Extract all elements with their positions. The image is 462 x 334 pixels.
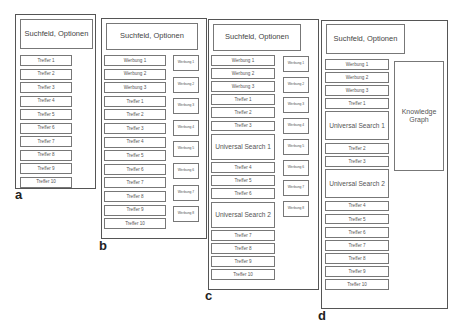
universal-search-block: Universal Search 1: [325, 111, 389, 140]
sidebar-ad: Werbung 6: [283, 160, 309, 176]
search-result: Treffer 10: [325, 279, 389, 290]
sidebar-ad: Werbung 6: [173, 163, 199, 179]
search-result: Treffer 2: [104, 109, 166, 120]
ad-result: Werbung 3: [211, 81, 275, 92]
search-result: Treffer 1: [211, 94, 275, 105]
ad-result: Werbung 3: [104, 82, 166, 93]
search-field-options: Suchfeld, Optionen: [326, 24, 405, 54]
search-result: Treffer 4: [20, 96, 72, 107]
search-result: Treffer 3: [211, 121, 275, 132]
search-result: Treffer 2: [211, 107, 275, 118]
search-result: Treffer 1: [325, 98, 389, 109]
panel-label-a: a: [15, 187, 22, 202]
search-result: Treffer 3: [325, 156, 389, 167]
sidebar-ad: Werbung 2: [173, 77, 199, 93]
sidebar-ad: Werbung 7: [173, 185, 199, 201]
search-result: Treffer 7: [104, 177, 166, 188]
sidebar-ad: Werbung 4: [283, 118, 309, 134]
search-field-options: Suchfeld, Optionen: [20, 19, 93, 49]
sidebar-ad: Werbung 5: [173, 141, 199, 157]
search-result: Treffer 5: [104, 150, 166, 161]
search-result: Treffer 8: [20, 150, 72, 161]
search-result: Treffer 5: [20, 109, 72, 120]
search-result: Treffer 9: [211, 256, 275, 267]
search-result: Treffer 8: [325, 253, 389, 264]
search-result: Treffer 1: [104, 96, 166, 107]
search-result: Treffer 6: [211, 188, 275, 199]
search-result: Treffer 3: [20, 82, 72, 93]
ad-result: Werbung 1: [211, 55, 275, 66]
sidebar-ad: Werbung 5: [283, 139, 309, 155]
search-result: Treffer 9: [104, 205, 166, 216]
universal-search-block: Universal Search 2: [211, 202, 275, 228]
sidebar-ad: Werbung 8: [283, 201, 309, 217]
search-result: Treffer 3: [104, 123, 166, 134]
search-result: Treffer 4: [104, 137, 166, 148]
search-result: Treffer 1: [20, 55, 72, 66]
search-result: Treffer 9: [20, 163, 72, 174]
search-result: Treffer 2: [325, 143, 389, 154]
search-result: Treffer 10: [20, 177, 72, 188]
knowledge-graph-box: Knowledge Graph: [394, 61, 444, 171]
sidebar-ad: Werbung 2: [283, 77, 309, 93]
sidebar-ad: Werbung 1: [173, 55, 199, 71]
search-result: Treffer 7: [211, 230, 275, 241]
search-result: Treffer 7: [325, 240, 389, 251]
ad-result: Werbung 2: [325, 72, 389, 83]
panel-label-c: c: [205, 288, 212, 303]
search-field-options: Suchfeld, Optionen: [213, 24, 301, 51]
universal-search-block: Universal Search 1: [211, 134, 275, 160]
search-field-options: Suchfeld, Optionen: [106, 23, 198, 50]
ad-result: Werbung 2: [104, 69, 166, 80]
search-result: Treffer 6: [20, 123, 72, 134]
ad-result: Werbung 1: [104, 55, 166, 66]
search-result: Treffer 6: [104, 164, 166, 175]
panel-label-b: b: [99, 238, 107, 253]
sidebar-ad: Werbung 1: [283, 56, 309, 72]
ad-result: Werbung 1: [325, 59, 389, 70]
sidebar-ad: Werbung 4: [173, 120, 199, 136]
search-result: Treffer 10: [211, 269, 275, 280]
sidebar-ad: Werbung 3: [283, 97, 309, 113]
sidebar-ad: Werbung 7: [283, 180, 309, 196]
search-result: Treffer 5: [325, 214, 389, 225]
search-result: Treffer 2: [20, 69, 72, 80]
search-result: Treffer 4: [325, 201, 389, 212]
ad-result: Werbung 2: [211, 68, 275, 79]
search-result: Treffer 4: [211, 162, 275, 173]
sidebar-ad: Werbung 3: [173, 98, 199, 114]
ad-result: Werbung 3: [325, 85, 389, 96]
panel-label-d: d: [318, 308, 326, 323]
search-result: Treffer 8: [211, 243, 275, 254]
search-result: Treffer 7: [20, 136, 72, 147]
universal-search-block: Universal Search 2: [325, 169, 389, 198]
search-result: Treffer 8: [104, 191, 166, 202]
search-result: Treffer 10: [104, 218, 166, 229]
search-result: Treffer 9: [325, 266, 389, 277]
search-result: Treffer 6: [325, 227, 389, 238]
sidebar-ad: Werbung 8: [173, 206, 199, 222]
search-result: Treffer 5: [211, 175, 275, 186]
